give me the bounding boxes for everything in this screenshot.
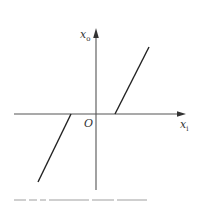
lower-linear-segment [38,114,71,182]
origin-label: O [84,117,93,130]
upper-linear-segment [115,47,149,114]
x-axis-arrow-icon [177,111,186,117]
y-axis-label: xo [80,28,90,43]
x-axis-label: xi [180,118,189,133]
diagram-canvas: xo O xi [0,0,201,204]
figure-caption-cut-off [14,199,184,204]
y-axis-arrow-icon [93,28,99,38]
dead-zone-diagram: xo O xi [0,0,201,204]
